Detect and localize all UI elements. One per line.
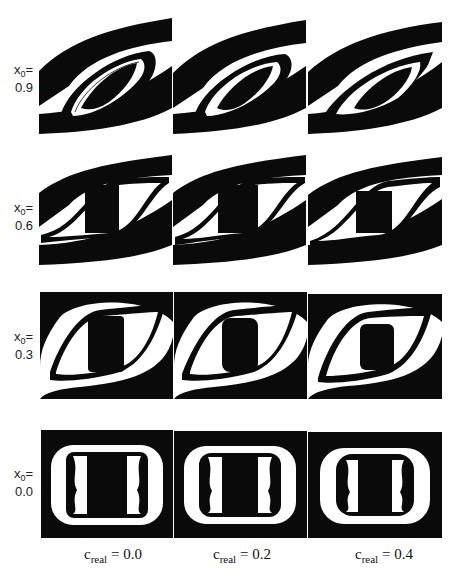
panel-x0-0.6-c-0.4 [308, 157, 442, 265]
panel-x0-0.6-c-0.0 [39, 155, 172, 265]
panel-x0-0.0-c-0.2 [174, 431, 307, 538]
panel-x0-0.0-c-0.4 [308, 432, 442, 538]
column-caption-c-real-0.2: creal = 0.2 [213, 546, 271, 565]
column-caption-c-real-0.4: creal = 0.4 [355, 546, 413, 565]
panel-x0-0.9-c-0.4 [308, 20, 442, 134]
panel-x0-0.9-c-0.0 [39, 16, 172, 134]
panel-x0-0.3-c-0.2 [174, 292, 307, 399]
panel-x0-0.0-c-0.0 [41, 430, 173, 538]
row-label-x0-0.3: x0= 0.3 [14, 330, 40, 361]
panel-x0-0.3-c-0.4 [308, 294, 442, 399]
row-label-x0-0.6: x0= 0.6 [14, 201, 40, 232]
panel-x0-0.3-c-0.0 [40, 292, 173, 399]
panel-x0-0.6-c-0.2 [173, 155, 306, 265]
panel-x0-0.9-c-0.2 [173, 18, 306, 134]
column-caption-c-real-0.0: creal = 0.0 [84, 546, 142, 565]
row-label-x0-0.0: x0= 0.0 [14, 467, 40, 498]
row-label-x0-0.9: x0= 0.9 [14, 63, 40, 94]
figure-grid: x0= 0.9 x0= 0.6 x0= 0.3 x0= 0.0 [0, 0, 462, 580]
